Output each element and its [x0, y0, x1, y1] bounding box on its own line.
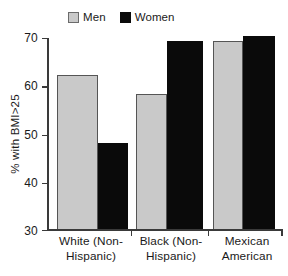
y-tick-label: 70	[24, 31, 38, 45]
plot-area: 70 60 50 40 30	[47, 38, 283, 231]
legend-label-women: Women	[135, 11, 175, 23]
x-category-mexican-line1: Mexican	[225, 234, 270, 248]
y-axis-title: % with BMI>25	[6, 36, 24, 232]
y-tick-mark	[42, 230, 47, 231]
chart-legend: Men Women	[68, 9, 175, 25]
bar-women-black	[167, 41, 203, 229]
x-category-mexican: Mexican American	[205, 234, 288, 264]
x-category-white-line1: White (Non-	[59, 234, 123, 248]
x-category-mexican-line2: American	[205, 249, 288, 264]
x-category-white-line2: Hispanic)	[47, 249, 135, 264]
legend-entry-men: Men	[68, 11, 106, 23]
bar-women-white	[98, 143, 128, 230]
y-axis-title-text: % with BMI>25	[9, 94, 21, 174]
y-tick-mark	[42, 135, 47, 136]
y-tick-mark	[42, 86, 47, 87]
x-category-white: White (Non- Hispanic)	[47, 234, 135, 264]
y-tick-mark	[42, 38, 47, 39]
bar-men-black	[136, 94, 167, 229]
x-axis-line	[47, 229, 283, 231]
y-tick-label: 30	[24, 224, 38, 238]
bmi-bar-chart: Men Women % with BMI>25 70 60 50 40	[0, 0, 288, 276]
x-axis-category-labels: White (Non- Hispanic) Black (Non- Hispan…	[47, 234, 283, 276]
y-tick-label: 50	[24, 128, 38, 142]
legend-entry-women: Women	[120, 11, 175, 23]
bar-men-white	[57, 75, 98, 229]
y-axis-line	[47, 38, 49, 231]
bar-women-mexican	[243, 36, 275, 229]
x-category-black-line1: Black (Non-	[140, 234, 203, 248]
bar-men-mexican	[213, 41, 243, 229]
legend-label-men: Men	[83, 11, 106, 23]
y-tick-mark	[42, 183, 47, 184]
gray-swatch-icon	[68, 12, 79, 23]
y-tick-label: 60	[24, 79, 38, 93]
black-swatch-icon	[120, 12, 131, 23]
y-tick-label: 40	[24, 176, 38, 190]
x-category-black-line2: Hispanic)	[129, 249, 213, 264]
x-category-black: Black (Non- Hispanic)	[129, 234, 213, 264]
